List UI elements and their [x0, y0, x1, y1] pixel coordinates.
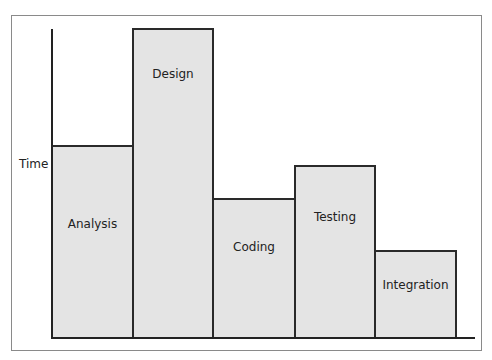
bar-label: Analysis	[53, 217, 132, 231]
y-axis	[51, 29, 53, 339]
x-axis	[51, 337, 475, 339]
bar-label: Coding	[214, 240, 294, 254]
bar-design: Design	[132, 28, 214, 338]
bar-analysis: Analysis	[51, 145, 134, 338]
bar-label: Integration	[376, 278, 455, 292]
bar-label: Testing	[296, 210, 374, 224]
y-axis-label: Time	[19, 157, 48, 171]
bar-coding: Coding	[212, 198, 296, 338]
bar-label: Design	[134, 67, 212, 81]
bar-integration: Integration	[374, 250, 457, 338]
bar-testing: Testing	[294, 165, 376, 338]
